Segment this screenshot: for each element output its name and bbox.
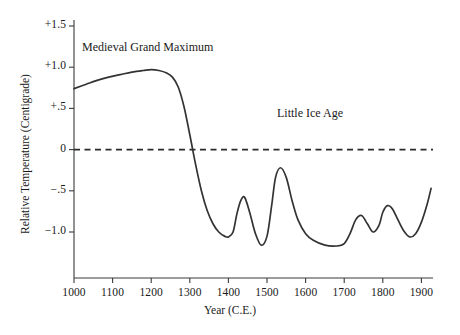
annotation-medieval-grand-maximum: Medieval Grand Maximum — [82, 40, 213, 55]
y-axis-title: Relative Temperature (Centigrade) — [19, 59, 31, 249]
x-axis-title: Year (C.E.) — [0, 304, 460, 316]
temperature-series-line — [74, 70, 431, 246]
y-axis-ticks — [69, 26, 74, 232]
axes-group — [69, 20, 433, 283]
x-tick-label: 1900 — [396, 286, 446, 298]
x-axis-ticks — [74, 278, 421, 283]
annotation-little-ice-age: Little Ice Age — [277, 106, 343, 121]
y-tick-label: +1.5 — [12, 18, 66, 30]
chart-canvas — [0, 0, 460, 335]
temperature-chart-figure: +1.5+1.0+.50−.5−1.0 10001100120013001400… — [0, 0, 460, 335]
